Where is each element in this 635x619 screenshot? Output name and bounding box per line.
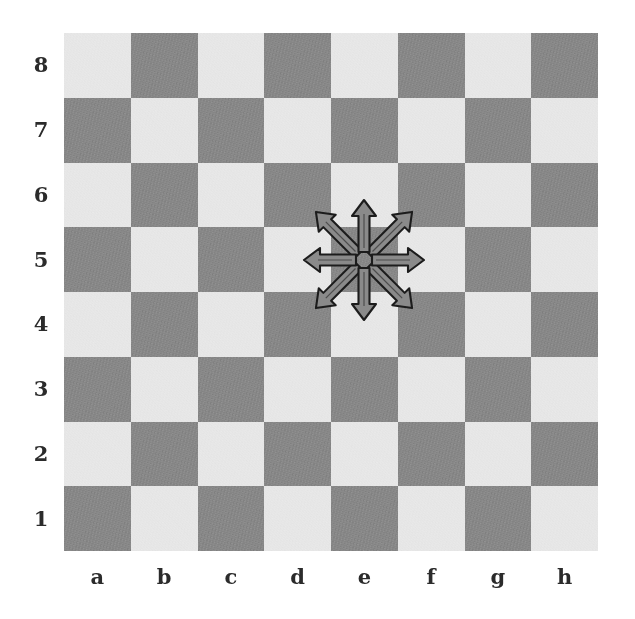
square-f3[interactable]: [398, 357, 465, 422]
square-g6[interactable]: [465, 163, 532, 228]
square-g2[interactable]: [465, 422, 532, 487]
square-h3[interactable]: [531, 357, 598, 422]
square-c5[interactable]: [198, 227, 265, 292]
square-g1[interactable]: [465, 486, 532, 551]
square-g3[interactable]: [465, 357, 532, 422]
square-a2[interactable]: [64, 422, 131, 487]
square-d8[interactable]: [264, 33, 331, 98]
square-b2[interactable]: [131, 422, 198, 487]
file-label-e: e: [349, 566, 379, 587]
rank-label-3: 3: [26, 378, 56, 399]
square-c3[interactable]: [198, 357, 265, 422]
rank-label-6: 6: [26, 184, 56, 205]
rank-label-2: 2: [26, 443, 56, 464]
square-e1[interactable]: [331, 486, 398, 551]
rank-label-8: 8: [26, 54, 56, 75]
king-move-arrows: [292, 188, 436, 332]
square-a5[interactable]: [64, 227, 131, 292]
square-d1[interactable]: [264, 486, 331, 551]
square-a8[interactable]: [64, 33, 131, 98]
square-h2[interactable]: [531, 422, 598, 487]
rank-label-5: 5: [26, 249, 56, 270]
square-g5[interactable]: [465, 227, 532, 292]
file-label-f: f: [416, 566, 446, 587]
file-label-c: c: [216, 566, 246, 587]
rank-label-4: 4: [26, 313, 56, 334]
square-e3[interactable]: [331, 357, 398, 422]
square-h1[interactable]: [531, 486, 598, 551]
rank-label-7: 7: [26, 119, 56, 140]
square-c7[interactable]: [198, 98, 265, 163]
square-e7[interactable]: [331, 98, 398, 163]
square-h4[interactable]: [531, 292, 598, 357]
file-label-h: h: [550, 566, 580, 587]
square-d7[interactable]: [264, 98, 331, 163]
file-label-g: g: [483, 566, 513, 587]
square-b5[interactable]: [131, 227, 198, 292]
square-c6[interactable]: [198, 163, 265, 228]
square-e8[interactable]: [331, 33, 398, 98]
square-a4[interactable]: [64, 292, 131, 357]
square-a6[interactable]: [64, 163, 131, 228]
square-a1[interactable]: [64, 486, 131, 551]
square-c2[interactable]: [198, 422, 265, 487]
square-g4[interactable]: [465, 292, 532, 357]
square-d3[interactable]: [264, 357, 331, 422]
square-c8[interactable]: [198, 33, 265, 98]
square-e2[interactable]: [331, 422, 398, 487]
square-f1[interactable]: [398, 486, 465, 551]
square-a3[interactable]: [64, 357, 131, 422]
square-h6[interactable]: [531, 163, 598, 228]
file-label-b: b: [149, 566, 179, 587]
square-h5[interactable]: [531, 227, 598, 292]
square-d2[interactable]: [264, 422, 331, 487]
square-f7[interactable]: [398, 98, 465, 163]
square-b8[interactable]: [131, 33, 198, 98]
square-c4[interactable]: [198, 292, 265, 357]
square-h7[interactable]: [531, 98, 598, 163]
square-a7[interactable]: [64, 98, 131, 163]
square-g7[interactable]: [465, 98, 532, 163]
rank-label-1: 1: [26, 508, 56, 529]
square-b7[interactable]: [131, 98, 198, 163]
file-label-a: a: [82, 566, 112, 587]
file-label-d: d: [283, 566, 313, 587]
square-f8[interactable]: [398, 33, 465, 98]
chess-diagram: 87654321 abcdefgh: [0, 0, 635, 619]
square-b6[interactable]: [131, 163, 198, 228]
square-c1[interactable]: [198, 486, 265, 551]
square-b4[interactable]: [131, 292, 198, 357]
square-f2[interactable]: [398, 422, 465, 487]
king-move-arrows-svg: [292, 188, 436, 332]
square-b1[interactable]: [131, 486, 198, 551]
square-b3[interactable]: [131, 357, 198, 422]
square-g8[interactable]: [465, 33, 532, 98]
square-h8[interactable]: [531, 33, 598, 98]
